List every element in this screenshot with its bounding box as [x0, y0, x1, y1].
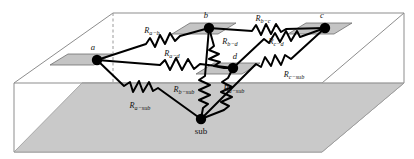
resistor-label-R_c-sub: Rc−sub	[283, 70, 305, 80]
node-label-c: c	[320, 10, 324, 20]
ground-plane-surface	[14, 83, 404, 152]
node-b[interactable]	[204, 23, 214, 33]
node-c[interactable]	[320, 23, 330, 33]
node-a[interactable]	[92, 55, 102, 65]
resistor-sub-R_c-d: c−d	[274, 40, 285, 47]
node-sub[interactable]	[196, 114, 206, 124]
resistor-sub-R_a-sub: a−sub	[135, 104, 151, 111]
resistor-label-R_a-d: Ra−d	[163, 49, 180, 59]
substrate-ground-plane	[14, 83, 404, 152]
resistor-label-R_b-c: Rb−c	[254, 14, 270, 24]
node-d[interactable]	[228, 63, 238, 73]
resistor-sub-R_a-b: a−b	[149, 29, 159, 36]
substrate-network-figure: a b c d sub Ra−b Ra−d Rb−c Rb−d Rc−d	[0, 0, 414, 159]
resistor-sub-R_d-sub: d−sub	[229, 87, 245, 94]
resistor-sub-R_b-c: b−c	[261, 17, 271, 24]
diagram-canvas: a b c d sub Ra−b Ra−d Rb−c Rb−d Rc−d	[0, 0, 414, 159]
resistor-sub-R_a-d: a−d	[169, 52, 180, 59]
resistor-sub-R_b-sub: b−sub	[179, 88, 195, 95]
resistor-label-R_b-d: Rb−d	[221, 37, 238, 47]
resistor-sub-R_c-sub: c−sub	[289, 73, 305, 80]
node-label-a: a	[91, 42, 95, 52]
resistor-sub-R_b-d: b−d	[227, 40, 238, 47]
node-label-sub: sub	[195, 126, 208, 136]
node-label-b: b	[204, 10, 209, 20]
resistor-label-R_a-b: Ra−b	[143, 26, 159, 36]
node-label-d: d	[233, 51, 238, 61]
